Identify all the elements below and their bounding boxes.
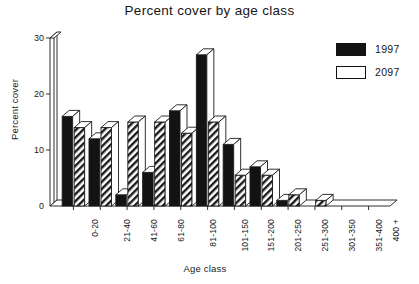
y-tick-label: 20 [34,89,44,99]
x-axis-label: Age class [40,263,370,274]
chart-figure: Percent cover by age class Percent cover… [0,0,419,284]
x-tick-label: 301-350 [347,219,357,252]
bar-1997-251-300-front [277,200,288,206]
legend-swatch-2097 [336,66,366,79]
bar-2097-201-250-front [262,175,273,206]
y-tick-label: 30 [34,33,44,43]
x-tick-label: 81-100 [207,219,217,247]
y-tick-label: 10 [34,145,44,155]
bar-2097-251-300-front [289,195,300,206]
bar-2097-21-40-front [101,128,112,206]
x-tick-label: 0-20 [90,219,100,237]
chart-title: Percent cover by age class [0,3,419,18]
bar-1997-21-40-front [89,139,100,206]
bar-1997-61-80-front [143,172,154,206]
bar-2097-61-80-front [155,122,166,206]
x-tick-label: 41-60 [149,219,159,242]
x-tick-label: 61-80 [176,219,186,242]
bars-group [62,49,333,206]
x-tick-label: 251-300 [320,219,330,252]
legend-swatch-1997 [336,43,366,56]
bar-1997-0-20-front [62,116,73,206]
bar-2097-151-200-front [235,175,246,206]
legend-item-2097: 2097 [336,63,418,81]
bar-1997-81-100-front [170,111,181,206]
bar-2097-81-100-front [182,133,193,206]
bar-1997-201-250-front [250,167,261,206]
x-tick-label: 151-200 [266,219,276,252]
bar-1997-41-60-front [116,195,127,206]
x-tick-label: 101-150 [239,219,249,252]
x-tick-label: 400 + [390,219,400,242]
bar-2097-0-20-front [74,128,85,206]
bar-2097-101-150-front [208,122,219,206]
bar-1997-151-200-front [223,144,234,206]
bar-2097-301-350-front [316,200,327,206]
legend-item-1997: 1997 [336,40,418,58]
y-axis-wall-side [50,32,57,206]
x-tick-label: 351-400 [373,219,383,252]
y-axis-label: Percent cover [9,62,20,158]
x-tick-label: 21-40 [122,219,132,242]
x-tick-label: 201-250 [293,219,303,252]
bar-1997-101-150-front [196,55,207,206]
legend-label-1997: 1997 [375,43,400,55]
legend-label-2097: 2097 [375,66,400,78]
y-tick-label: 0 [39,201,44,211]
y-axis-wall-top [50,32,61,38]
chart-legend: 1997 2097 [336,40,418,86]
bar-2097-41-60-front [128,122,139,206]
